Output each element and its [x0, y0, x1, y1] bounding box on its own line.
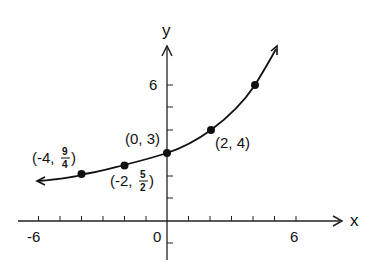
y-ticks [167, 85, 173, 243]
origin-label: 0 [153, 228, 161, 245]
svg-text:(-2,: (-2, [110, 172, 133, 189]
point-0 [163, 149, 171, 157]
label-2-4: (2, 4) [215, 134, 250, 151]
svg-text:9: 9 [62, 146, 68, 157]
svg-text:): ) [149, 172, 154, 189]
x-tick-label-6: 6 [290, 228, 298, 245]
x-axis-label: x [350, 211, 359, 230]
svg-text:2: 2 [140, 182, 146, 193]
svg-text:4: 4 [62, 159, 68, 170]
label-neg2: (-2, 5 2 ) [110, 169, 154, 193]
graph: x y -6 0 6 6 (-4, 9 4 ) (-2, 5 2 ) (0, 3… [0, 0, 383, 275]
y-axis-label: y [162, 21, 171, 40]
point-neg4 [78, 170, 86, 178]
point-4 [251, 81, 259, 89]
point-2 [207, 126, 215, 134]
svg-text:5: 5 [140, 169, 146, 180]
svg-text:(-4,: (-4, [32, 149, 55, 166]
label-neg4: (-4, 9 4 ) [32, 146, 76, 170]
point-neg2 [121, 162, 129, 170]
label-0-3: (0, 3) [125, 130, 160, 147]
svg-text:): ) [71, 149, 76, 166]
x-tick-label-neg6: -6 [27, 228, 40, 245]
y-tick-label-6: 6 [149, 76, 157, 93]
